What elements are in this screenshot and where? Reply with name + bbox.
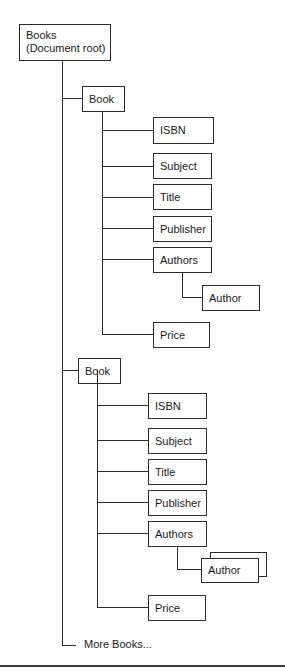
book1-authors-label: Authors bbox=[160, 254, 198, 267]
book1-isbn-connector bbox=[102, 130, 153, 131]
book2-author-trunk bbox=[177, 547, 178, 570]
book2-price-connector bbox=[97, 607, 148, 608]
book1-subject-connector bbox=[102, 166, 153, 167]
book1-title-connector bbox=[102, 197, 153, 198]
book2-author-node: Author bbox=[201, 558, 259, 583]
book2-publisher-node: Publisher bbox=[148, 490, 207, 516]
book1-authors-connector bbox=[102, 259, 153, 260]
book1-node: Book bbox=[82, 86, 125, 112]
book2-connector bbox=[62, 370, 78, 371]
book2-publisher-connector bbox=[97, 502, 148, 503]
book1-isbn-label: ISBN bbox=[160, 124, 186, 137]
book1-author-trunk bbox=[182, 273, 183, 298]
book1-price-connector bbox=[102, 334, 153, 335]
book2-trunk bbox=[97, 370, 98, 608]
book2-isbn-label: ISBN bbox=[155, 400, 181, 413]
more-books-label: More Books... bbox=[84, 638, 152, 650]
book1-title-label: Title bbox=[160, 191, 180, 204]
book2-node: Book bbox=[78, 358, 121, 384]
book1-trunk bbox=[102, 112, 103, 335]
root-node: Books (Document root) bbox=[19, 24, 111, 61]
book1-connector bbox=[62, 98, 82, 99]
book1-subject-label: Subject bbox=[160, 160, 197, 173]
book2-publisher-label: Publisher bbox=[155, 497, 201, 510]
book2-subject-node: Subject bbox=[148, 428, 207, 454]
book1-publisher-connector bbox=[102, 228, 153, 229]
book2-isbn-connector bbox=[97, 405, 148, 406]
book2-authors-node: Authors bbox=[148, 521, 207, 547]
book2-subject-connector bbox=[97, 440, 148, 441]
book1-author-node: Author bbox=[202, 285, 260, 311]
book1-author-label: Author bbox=[209, 292, 241, 305]
book2-authors-connector bbox=[97, 533, 148, 534]
book2-title-node: Title bbox=[148, 459, 207, 485]
book1-author-connector bbox=[182, 297, 202, 298]
book1-subject-node: Subject bbox=[153, 153, 212, 179]
root-trunk bbox=[62, 61, 63, 646]
book2-author-label: Author bbox=[208, 564, 240, 577]
book1-publisher-label: Publisher bbox=[160, 223, 206, 236]
root-label-line2: (Document root) bbox=[26, 42, 105, 55]
bottom-divider bbox=[0, 665, 285, 667]
book2-authors-label: Authors bbox=[155, 528, 193, 541]
book2-isbn-node: ISBN bbox=[148, 393, 207, 419]
book1-isbn-node: ISBN bbox=[153, 117, 214, 144]
book1-authors-node: Authors bbox=[153, 247, 212, 273]
book1-price-node: Price bbox=[153, 322, 210, 348]
more-connector bbox=[62, 645, 76, 646]
book2-title-label: Title bbox=[155, 466, 175, 479]
book1-price-label: Price bbox=[160, 329, 185, 342]
book1-title-node: Title bbox=[153, 184, 212, 210]
book1-label: Book bbox=[89, 93, 114, 106]
book1-publisher-node: Publisher bbox=[153, 216, 212, 242]
book2-price-label: Price bbox=[155, 602, 180, 615]
root-label-line1: Books bbox=[26, 29, 57, 42]
book2-title-connector bbox=[97, 471, 148, 472]
book2-price-node: Price bbox=[148, 595, 206, 621]
book2-author-connector bbox=[177, 569, 201, 570]
book2-subject-label: Subject bbox=[155, 435, 192, 448]
